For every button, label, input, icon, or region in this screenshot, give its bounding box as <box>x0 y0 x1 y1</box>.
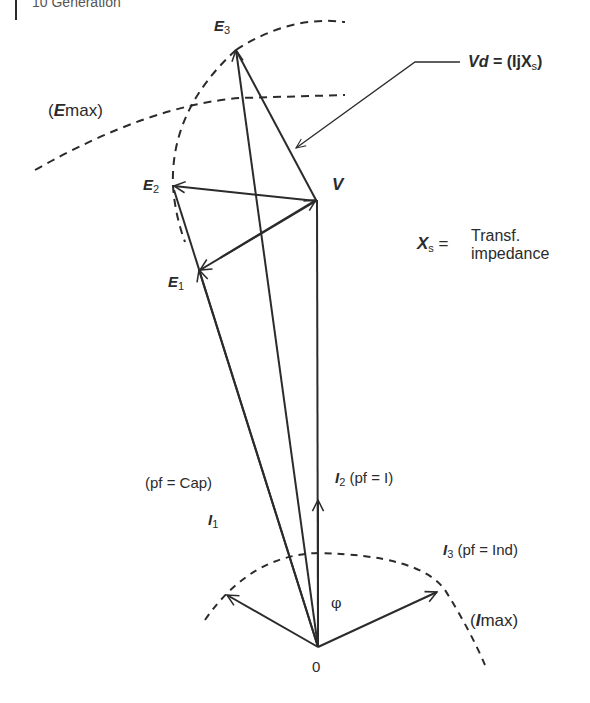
label-e2: E2 <box>143 177 159 195</box>
label-i2: I2 (pf = I) <box>335 470 393 488</box>
label-imax: (Imax) <box>470 612 518 629</box>
label-i1: I1 <box>208 512 218 530</box>
vector-e3 <box>236 50 318 647</box>
e1-to-v-arrow <box>220 200 316 258</box>
label-e1: E1 <box>168 274 184 292</box>
label-v: V <box>332 176 343 193</box>
label-xs: Xs = <box>417 235 449 254</box>
label-pf-cap: (pf = Cap) <box>145 475 212 490</box>
label-emax: (Emax) <box>48 102 103 119</box>
imax-locus-arc <box>205 553 485 665</box>
label-xs-desc-1: Transf. <box>471 228 520 244</box>
vd-to-e2 <box>174 186 316 201</box>
vd-leader-line <box>296 62 460 148</box>
label-e3: E3 <box>214 18 230 36</box>
e-locus-arc-upper <box>236 21 345 50</box>
vd-to-e3 <box>237 52 316 200</box>
label-xs-desc-2: impedance <box>471 246 549 262</box>
label-phi: φ <box>331 596 342 611</box>
label-origin: 0 <box>312 659 320 674</box>
label-vd-equation: Vd = (IjXs) <box>468 54 542 72</box>
label-i3: I3 (pf = Ind) <box>443 542 518 560</box>
vector-e1 <box>199 270 318 647</box>
